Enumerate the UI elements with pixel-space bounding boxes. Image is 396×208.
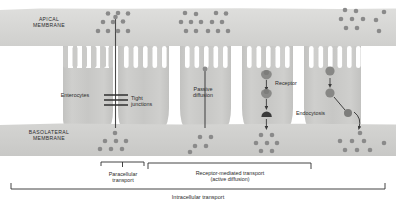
microvilli-group-1 [63,46,113,68]
label-receptor-mediated-transport: Receptor-mediated transport (active diff… [174,170,286,182]
label-passive-diffusion: Passive diffusion [182,86,224,98]
diagram-canvas: APICAL MEMBRANE BASOLATERAL MEMBRANE Ent… [0,0,396,208]
enterocyte-cell-1 [63,46,113,130]
label-endocytosis: Endocytosis [296,110,344,116]
enterocyte-cell-2 [118,46,169,130]
bracket-receptor-mediated [148,163,311,169]
bracket-paracellular [101,162,144,167]
enterocyte-cell-5 [304,46,361,130]
bracket-intracellular [11,183,385,189]
label-tight-junctions: Tight junctions [131,95,165,107]
label-enterocytes: Enterocytes [48,92,102,98]
label-apical-membrane: APICAL MEMBRANE [16,17,82,28]
label-intracellular-transport: Intracellular transport [146,194,250,200]
label-paracellular-transport: Paracellular transport [96,171,150,183]
label-basolateral-membrane: BASOLATERAL MEMBRANE [12,130,86,141]
enterocyte-cell-4 [242,46,293,130]
label-receptor: Receptor [275,80,311,86]
